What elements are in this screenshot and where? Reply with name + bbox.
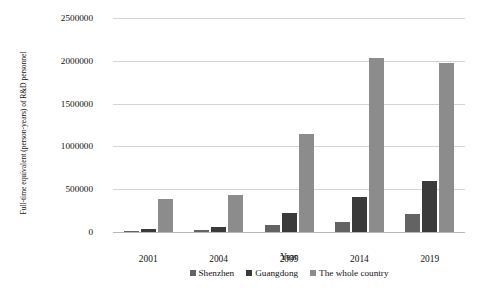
legend-label: The whole country [319, 268, 388, 278]
y-axis-tick-label: 2000000 [23, 57, 93, 66]
x-axis-title: Year [113, 252, 465, 263]
bar [352, 197, 367, 232]
bottom-caption [6, 288, 476, 294]
legend-label: Guangdong [255, 268, 298, 278]
bar-group [124, 18, 173, 232]
bar [422, 181, 437, 232]
y-axis-tick-label: 2500000 [23, 14, 93, 23]
y-axis-tick-label: 500000 [23, 185, 93, 194]
gridline [113, 232, 465, 233]
y-axis-tick-label: 1000000 [23, 142, 93, 151]
legend-item[interactable]: The whole country [310, 268, 388, 278]
bar [124, 231, 139, 232]
bar [299, 134, 314, 232]
plot-area: 0500000100000015000002000000250000020012… [113, 18, 465, 232]
y-axis-tick-label: 1500000 [23, 100, 93, 109]
bar [265, 225, 280, 232]
legend-item[interactable]: Guangdong [246, 268, 298, 278]
bar [439, 63, 454, 232]
bar-group [405, 18, 454, 232]
bar [228, 195, 243, 232]
bar-group [265, 18, 314, 232]
chart-legend: ShenzhenGuangdongThe whole country [113, 268, 465, 278]
bar [194, 230, 209, 232]
bar [405, 214, 420, 232]
legend-swatch-icon [310, 270, 316, 276]
bar [141, 229, 156, 232]
bar [335, 222, 350, 232]
y-axis-tick-label: 0 [23, 228, 93, 237]
bar-chart: Full-time equivalent (person-years) of R… [0, 0, 482, 294]
y-axis-title: Full-time equivalent (person-years) of R… [17, 18, 31, 248]
legend-label: Shenzhen [199, 268, 235, 278]
bar-group [335, 18, 384, 232]
bar [282, 213, 297, 232]
bar-group [194, 18, 243, 232]
bar [211, 227, 226, 232]
bar [158, 199, 173, 232]
legend-item[interactable]: Shenzhen [190, 268, 235, 278]
legend-swatch-icon [246, 270, 252, 276]
legend-swatch-icon [190, 270, 196, 276]
bar [369, 58, 384, 232]
